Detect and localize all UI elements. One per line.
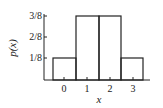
bar-1: [76, 16, 99, 80]
x-axis-title: x: [96, 93, 102, 105]
probability-histogram: 3/8 2/8 1/8 0 1 2 3 x p(x): [0, 0, 163, 108]
bar-0: [53, 58, 76, 80]
x-tick-label: 0: [62, 83, 67, 94]
x-tick-label: 1: [85, 83, 90, 94]
x-tick-label: 2: [108, 83, 113, 94]
bar-2: [99, 16, 121, 80]
y-tick-label: 2/8: [29, 31, 42, 42]
y-tick-label: 1/8: [29, 52, 42, 63]
x-tick-label: 3: [131, 83, 136, 94]
bar-3: [121, 58, 143, 80]
y-tick-label: 3/8: [29, 10, 42, 21]
y-axis-title: p(x): [6, 39, 19, 58]
